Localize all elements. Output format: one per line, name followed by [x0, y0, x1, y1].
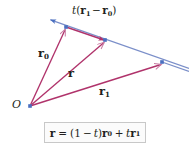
- position-vectors-group: [30, 30, 161, 107]
- vector-label-r1-subscript: 1: [105, 90, 110, 99]
- equation-equals: =: [55, 127, 70, 139]
- t-difference-first-subscript: 1: [86, 10, 91, 18]
- vector-label-t-difference: t(r1−r0): [72, 5, 116, 16]
- origin-label: O: [12, 99, 21, 110]
- equation-box: r=(1−t)r0+tr1: [44, 122, 146, 143]
- vector-r0: [30, 30, 65, 107]
- vector-t-difference: [66, 27, 104, 40]
- equation-minus: −: [81, 127, 94, 139]
- point-r0-endpoint: [64, 25, 68, 29]
- equation-r1-subscript: 1: [136, 130, 141, 138]
- t-difference-minus: −: [90, 4, 102, 16]
- equation-plus: +: [112, 127, 126, 139]
- t-difference-close-paren: ): [112, 4, 116, 16]
- equation-one: 1: [74, 127, 81, 139]
- parametric-line: [51, 20, 190, 69]
- t-difference-second-symbol: r: [102, 4, 108, 16]
- vector-label-r0-subscript: 0: [44, 52, 49, 61]
- vector-line-figure: O r0 r r1 t(r1−r0) r=(1−t)r0+tr1: [0, 0, 189, 153]
- parametric-line-group: [51, 20, 190, 72]
- point-r-endpoint: [103, 38, 107, 42]
- equation-r0-subscript: 0: [108, 130, 113, 138]
- point-r1-endpoint: [160, 60, 164, 64]
- vector-label-r-symbol: r: [68, 66, 74, 80]
- displacement-vector-group: [66, 27, 104, 40]
- vector-label-r0: r0: [38, 48, 49, 60]
- vector-r1: [30, 65, 161, 107]
- point-origin: [28, 104, 32, 108]
- t-difference-second-subscript: 0: [108, 10, 113, 18]
- vector-label-r: r: [68, 68, 74, 80]
- vector-label-r1: r1: [99, 86, 110, 98]
